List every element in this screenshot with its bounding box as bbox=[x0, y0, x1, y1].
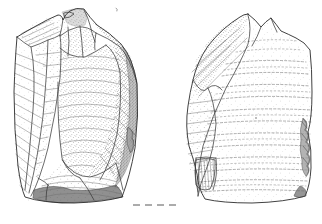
lithic-drawing-canvas bbox=[0, 0, 322, 224]
lithic-figure bbox=[0, 0, 322, 224]
surface-blemish bbox=[255, 117, 257, 119]
